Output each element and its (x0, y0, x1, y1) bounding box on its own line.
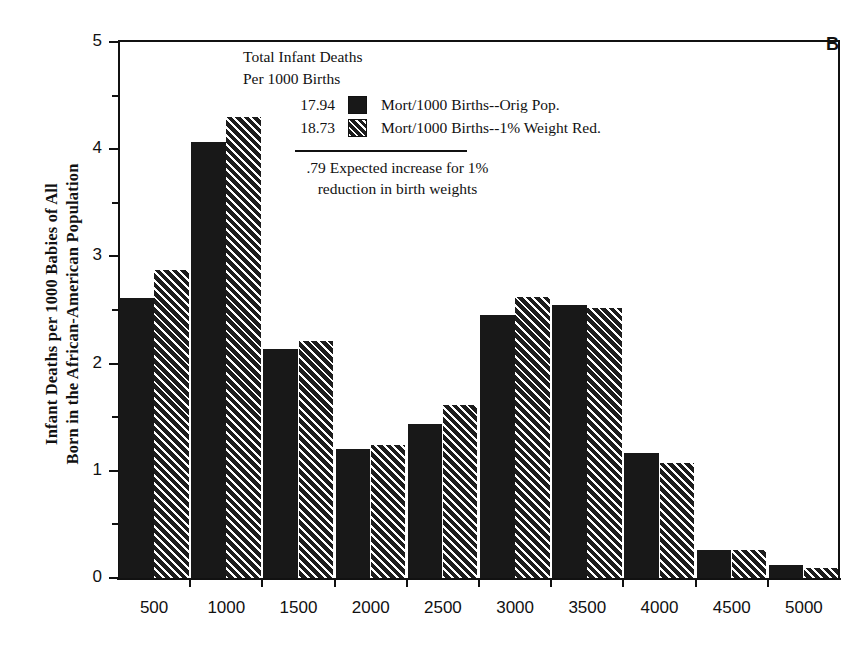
x-tick (334, 578, 336, 587)
x-tick (261, 578, 263, 587)
bar-4000-series2 (660, 463, 695, 578)
bar-2000-series1 (336, 449, 371, 578)
legend-swatch-solid (348, 96, 367, 114)
bar-500-series2 (154, 270, 189, 578)
y-tick-label: 5 (93, 31, 102, 51)
y-tick-label: 2 (93, 353, 102, 373)
legend-note-line-2: reduction in birth weights (295, 179, 500, 200)
x-tick-label: 4000 (641, 598, 679, 618)
bar-5000-series2 (804, 568, 839, 578)
legend-heading-line-2: Per 1000 Births (243, 68, 673, 90)
bar-4000-series1 (624, 453, 659, 578)
legend-note: .79 Expected increase for 1% reduction i… (295, 158, 500, 200)
bar-1500-series1 (263, 349, 298, 578)
legend-divider (295, 150, 467, 152)
y-tick-major: 3 (109, 255, 118, 257)
bar-2000-series2 (371, 445, 406, 578)
x-tick-label: 3000 (496, 598, 534, 618)
legend-entries: 17.94Mort/1000 Births--Orig Pop.18.73Mor… (243, 93, 673, 139)
plot-right-border (838, 40, 840, 580)
bar-3500-series1 (552, 305, 587, 578)
bar-1500-series2 (299, 341, 334, 578)
y-tick-minor (112, 416, 118, 418)
x-tick (767, 578, 769, 587)
x-tick (189, 578, 191, 587)
x-tick (406, 578, 408, 587)
x-tick (622, 578, 624, 587)
y-tick-label: 0 (93, 567, 102, 587)
x-tick-label: 4500 (713, 598, 751, 618)
legend-swatch-hatch (348, 119, 367, 137)
legend-heading-line-1: Total Infant Deaths (243, 46, 673, 68)
x-tick (550, 578, 552, 587)
y-tick-minor (112, 523, 118, 525)
y-tick-minor (112, 95, 118, 97)
x-tick (695, 578, 697, 587)
x-tick-label: 5000 (785, 598, 823, 618)
y-tick-major: 5 (109, 41, 118, 43)
bar-4500-series1 (697, 550, 732, 578)
legend-entry-label: Mort/1000 Births--1% Weight Red. (381, 117, 601, 139)
y-axis-title: Infant Deaths per 1000 Babies of All Bor… (40, 34, 84, 594)
chart-figure: Infant Deaths per 1000 Babies of All Bor… (0, 0, 853, 650)
legend: Total Infant Deaths Per 1000 Births 17.9… (243, 46, 673, 200)
x-tick-label: 1000 (207, 598, 245, 618)
bar-3500-series2 (587, 308, 622, 578)
x-tick-label: 2000 (352, 598, 390, 618)
bar-5000-series1 (769, 565, 804, 578)
x-tick-label: 3500 (568, 598, 606, 618)
y-tick-minor (112, 309, 118, 311)
y-tick-major: 2 (109, 363, 118, 365)
bar-500-series1 (119, 298, 154, 578)
legend-entry: 18.73Mort/1000 Births--1% Weight Red. (283, 116, 673, 139)
bar-1000-series1 (191, 142, 226, 578)
x-tick-label: 2500 (424, 598, 462, 618)
y-axis-title-line-1: Infant Deaths per 1000 Babies of All (41, 183, 62, 445)
bar-2500-series2 (443, 405, 478, 578)
x-tick (478, 578, 480, 587)
legend-heading: Total Infant Deaths Per 1000 Births (243, 46, 673, 90)
legend-entry: 17.94Mort/1000 Births--Orig Pop. (283, 93, 673, 116)
x-tick-label: 1500 (280, 598, 318, 618)
y-tick-major: 1 (109, 470, 118, 472)
bar-2500-series1 (408, 424, 443, 578)
bar-4500-series2 (732, 550, 767, 578)
y-tick-label: 4 (93, 138, 102, 158)
bar-3000-series1 (480, 315, 515, 578)
legend-entry-label: Mort/1000 Births--Orig Pop. (381, 94, 560, 116)
y-tick-label: 1 (93, 460, 102, 480)
bar-3000-series2 (515, 297, 550, 578)
legend-entry-value: 18.73 (283, 117, 335, 139)
y-tick-minor (112, 202, 118, 204)
x-tick-label: 500 (140, 598, 168, 618)
plot-top-border (118, 40, 840, 42)
y-tick-major: 0 (109, 577, 118, 579)
y-tick-label: 3 (93, 245, 102, 265)
legend-entry-value: 17.94 (283, 94, 335, 116)
y-axis-title-line-2: Born in the African-American Population (62, 163, 83, 464)
y-tick-major: 4 (109, 148, 118, 150)
legend-note-line-1: .79 Expected increase for 1% (295, 158, 500, 179)
